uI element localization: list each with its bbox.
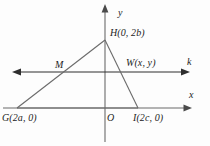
point-label-i: I(2c, 0) (133, 113, 163, 123)
line-k-label: k (187, 57, 192, 67)
y-axis-arrowhead-icon (102, 4, 109, 13)
point-label-g: G(2a, 0) (2, 113, 37, 123)
diagram-canvas (0, 0, 210, 146)
point-label-m: M (55, 60, 63, 70)
origin-label: O (107, 113, 114, 123)
line-k (12, 68, 190, 75)
geometry-figure: y x k H(0, 2b) G(2a, 0) I(2c, 0) M W(x, … (0, 0, 210, 146)
x-axis-arrowhead-icon (184, 105, 193, 112)
line-k-left-arrowhead-icon (12, 68, 21, 75)
line-k-right-arrowhead-icon (181, 68, 190, 75)
triangle-ghi (17, 40, 138, 108)
y-axis-label: y (118, 8, 123, 18)
point-label-w: W(x, y) (126, 58, 156, 68)
x-axis-label: x (189, 90, 194, 100)
segment-hi (105, 40, 138, 108)
point-label-h: H(0, 2b) (110, 28, 145, 38)
segment-gh (17, 40, 105, 108)
